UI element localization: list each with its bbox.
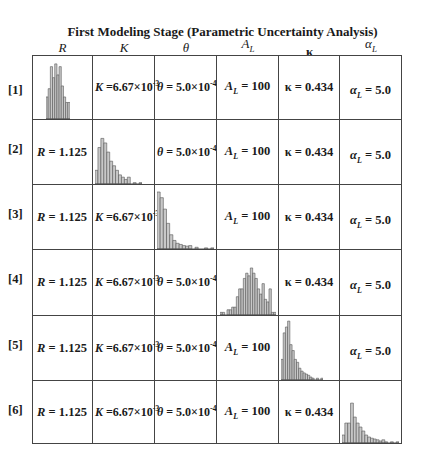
- cell-row2-alpha-l: αL = 5.0: [340, 120, 402, 185]
- cell-row5-k: K =6.67×10-3: [93, 316, 155, 381]
- value-kappa: κ = 0.434: [285, 145, 333, 160]
- column-header-k: K: [93, 40, 155, 56]
- cell-row6-a-l: AL = 100: [217, 381, 279, 444]
- cell-row1-k: K =6.67×10-3: [93, 55, 155, 120]
- value-r: R = 1.125: [37, 405, 87, 420]
- cell-row1-theta: θ = 5.0×10-4: [155, 55, 217, 120]
- value-k: K =6.67×10-3: [95, 275, 159, 290]
- value-a-l: AL = 100: [225, 144, 270, 161]
- value-k: K =6.67×10-3: [95, 80, 159, 95]
- histogram-k: [95, 136, 142, 184]
- cell-row3-theta: [155, 185, 217, 250]
- value-k: K =6.67×10-3: [95, 210, 159, 225]
- cell-row2-theta: θ = 5.0×10-4: [155, 120, 217, 185]
- histogram-kappa: [281, 318, 323, 380]
- cell-row4-kappa: κ = 0.434: [279, 250, 340, 316]
- cell-row1-r: [32, 55, 93, 120]
- value-a-l: AL = 100: [225, 209, 270, 226]
- value-kappa: κ = 0.434: [285, 80, 333, 95]
- cell-row2-r: R = 1.125: [32, 120, 93, 185]
- value-alpha-l: αL = 5.0: [350, 213, 391, 230]
- cell-row3-kappa: κ = 0.434: [279, 185, 340, 250]
- value-theta: θ = 5.0×10-4: [157, 275, 217, 290]
- value-alpha-l: αL = 5.0: [350, 148, 391, 165]
- column-header-r: R: [32, 40, 93, 56]
- cell-row2-a-l: AL = 100: [217, 120, 279, 185]
- cell-row4-theta: θ = 5.0×10-4: [155, 250, 217, 316]
- cell-row4-k: K =6.67×10-3: [93, 250, 155, 316]
- cell-row4-a-l: [217, 250, 279, 316]
- cell-row5-a-l: AL = 100: [217, 316, 279, 381]
- value-r: R = 1.125: [37, 341, 87, 356]
- value-theta: θ = 5.0×10-4: [157, 80, 217, 95]
- row-label: [5]: [8, 338, 23, 353]
- value-k: K =6.67×10-3: [95, 405, 159, 420]
- cell-row1-kappa: κ = 0.434: [279, 55, 340, 120]
- row-label: [6]: [8, 403, 23, 418]
- cell-row4-alpha-l: αL = 5.0: [340, 250, 402, 316]
- cell-row6-k: K =6.67×10-3: [93, 381, 155, 444]
- value-r: R = 1.125: [37, 210, 87, 225]
- cell-row3-alpha-l: αL = 5.0: [340, 185, 402, 250]
- value-a-l: AL = 100: [225, 79, 270, 96]
- value-r: R = 1.125: [37, 275, 87, 290]
- histogram-alpha-l: [342, 401, 399, 443]
- value-alpha-l: αL = 5.0: [350, 344, 391, 361]
- cell-row6-kappa: κ = 0.434: [279, 381, 340, 444]
- value-alpha-l: αL = 5.0: [350, 278, 391, 295]
- row-label: [3]: [8, 207, 23, 222]
- cell-row5-alpha-l: αL = 5.0: [340, 316, 402, 381]
- cell-row1-a-l: AL = 100: [217, 55, 279, 120]
- row-label: [2]: [8, 142, 23, 157]
- value-k: K =6.67×10-3: [95, 341, 159, 356]
- histogram-theta: [157, 189, 214, 249]
- cell-row6-r: R = 1.125: [32, 381, 93, 444]
- cell-row5-r: R = 1.125: [32, 316, 93, 381]
- cell-row6-alpha-l: [340, 381, 402, 444]
- value-theta: θ = 5.0×10-4: [157, 341, 217, 356]
- value-theta: θ = 5.0×10-4: [157, 145, 217, 160]
- column-header-a-l: AL: [217, 36, 279, 54]
- cell-row3-a-l: AL = 100: [217, 185, 279, 250]
- value-a-l: AL = 100: [225, 340, 270, 357]
- cell-row6-theta: θ = 5.0×10-4: [155, 381, 217, 444]
- row-label: [1]: [8, 83, 23, 98]
- cell-row3-k: K =6.67×10-3: [93, 185, 155, 250]
- cell-row2-kappa: κ = 0.434: [279, 120, 340, 185]
- histogram-a-l: [220, 260, 276, 315]
- row-label: [4]: [8, 272, 23, 287]
- column-header-theta: θ: [155, 40, 217, 56]
- value-kappa: κ = 0.434: [285, 210, 333, 225]
- value-theta: θ = 5.0×10-4: [157, 405, 217, 420]
- value-a-l: AL = 100: [225, 404, 270, 421]
- value-kappa: κ = 0.434: [285, 405, 333, 420]
- value-r: R = 1.125: [37, 145, 87, 160]
- column-header-alpha-l: αL: [340, 36, 402, 54]
- cell-row4-r: R = 1.125: [32, 250, 93, 316]
- cell-row5-kappa: [279, 316, 340, 381]
- cell-row2-k: [93, 120, 155, 185]
- value-kappa: κ = 0.434: [285, 275, 333, 290]
- cell-row5-theta: θ = 5.0×10-4: [155, 316, 217, 381]
- cell-row1-alpha-l: αL = 5.0: [340, 55, 402, 120]
- histogram-r: [46, 61, 70, 119]
- cell-row3-r: R = 1.125: [32, 185, 93, 250]
- value-alpha-l: αL = 5.0: [350, 83, 391, 100]
